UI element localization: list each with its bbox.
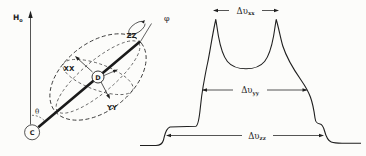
field-label: Ho	[13, 13, 23, 23]
yy-axis-arrowhead	[106, 94, 110, 99]
theta-angle-arc	[32, 115, 45, 121]
figure-svg: Ho φ θ XX YY ZZ D C Δυxx Δυyy Δυzz	[0, 0, 366, 156]
deuterium-label: D	[95, 74, 101, 82]
dv-zz-arrowhead-left	[166, 134, 171, 138]
dv-zz-label: Δυzz	[248, 131, 266, 142]
phi-label: φ	[164, 14, 170, 23]
dv-yy-label: Δυyy	[241, 85, 260, 97]
xx-axis-label: XX	[64, 65, 75, 73]
cd-bond-line	[38, 42, 140, 128]
xx-axis-arrow	[77, 58, 93, 73]
figure-canvas: Ho φ θ XX YY ZZ D C Δυxx Δυyy Δυzz	[0, 0, 366, 156]
yy-axis-label: YY	[106, 104, 118, 112]
carbon-label: C	[30, 129, 35, 137]
zz-axis-label: ZZ	[126, 32, 136, 40]
dv-xx-label: Δυxx	[237, 6, 256, 17]
rotation-axis-line	[141, 24, 152, 42]
dv-xx-arrowhead-left	[213, 9, 218, 13]
powder-pattern-curve	[140, 20, 361, 146]
dv-xx-arrowhead-right	[274, 9, 279, 13]
dv-zz-arrowhead-right	[319, 134, 324, 138]
phi-rotation-arrowhead	[141, 20, 145, 23]
theta-label: θ	[35, 108, 39, 116]
field-direction-arrowhead	[28, 11, 32, 19]
